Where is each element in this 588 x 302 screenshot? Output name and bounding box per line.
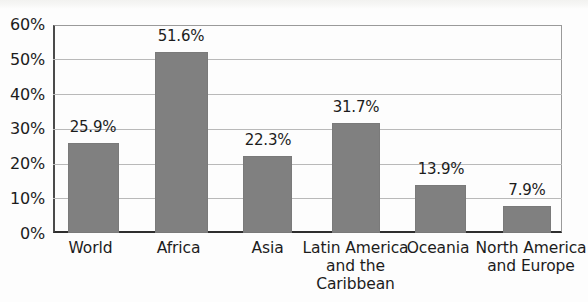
scan-artifact-band [0,0,588,9]
y-tick-60: 60% [0,15,45,34]
y-tick-40: 40% [0,85,45,104]
bar-africa[interactable] [155,52,208,233]
bar-value-africa: 51.6% [136,27,226,45]
x-label-oceania-line-1: Oceania [388,239,488,257]
gridline-40 [53,94,562,95]
bar-value-north-america-and-europe: 7.9% [482,181,572,199]
bar-north-america-and-europe[interactable] [503,206,551,233]
y-tick-50: 50% [0,50,45,69]
x-label-latin-america-line-2: and the [298,257,413,275]
x-label-north-america-line-1: North America [474,239,588,257]
gridline-50 [53,59,562,60]
y-tick-30: 30% [0,119,45,138]
bar-value-oceania: 13.9% [396,160,486,178]
bar-chart: 60% 50% 40% 30% 20% 10% 0% 25.9% 51.6% 2… [0,0,588,302]
x-label-north-america-line-2: and Europe [474,257,588,275]
bar-value-world: 25.9% [48,118,138,136]
bar-asia[interactable] [243,156,292,233]
x-label-latin-america-line-3: Caribbean [298,275,413,293]
bar-latin-america-and-the-caribbean[interactable] [332,123,380,233]
x-label-oceania: Oceania [388,239,488,257]
bar-world[interactable] [68,143,119,233]
bar-value-latin-america-and-the-caribbean: 31.7% [311,98,401,116]
x-label-north-america-and-europe: North America and Europe [474,239,588,275]
bar-value-asia: 22.3% [223,131,313,149]
y-tick-10: 10% [0,189,45,208]
bar-oceania[interactable] [415,185,466,233]
y-tick-20: 20% [0,154,45,173]
